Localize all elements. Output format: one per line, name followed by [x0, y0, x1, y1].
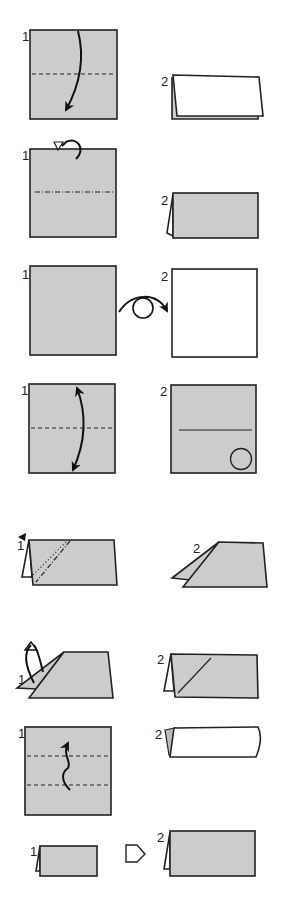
row1-step1: 1: [22, 29, 117, 119]
step-label: 1: [30, 844, 37, 859]
row5-step1: 1: [17, 533, 117, 585]
paper-square: [25, 727, 111, 815]
step-label: 2: [157, 830, 164, 845]
row8-step1: 1: [30, 844, 97, 876]
row6-step2: 2: [157, 652, 258, 698]
step-label: 2: [193, 541, 200, 556]
small-folded-paper: [40, 846, 97, 876]
paper-square: [171, 385, 256, 473]
row7-step1: 1: [18, 726, 111, 815]
step-label: 2: [160, 384, 167, 399]
row2-step2: 2: [161, 193, 258, 238]
turn-over-symbol: [119, 297, 167, 318]
paper-square-colored: [30, 266, 116, 355]
step-label: 1: [21, 383, 28, 398]
step-label: 1: [22, 148, 29, 163]
enlarge-arrow-icon: [126, 845, 145, 862]
row3-step2: 2: [161, 269, 257, 357]
back-flap: [164, 832, 170, 869]
step-label: 2: [161, 193, 168, 208]
row5-step2: 2: [172, 541, 267, 587]
folded-paper: [173, 193, 258, 238]
paper-square-white: [172, 269, 257, 357]
step-label: 1: [22, 267, 29, 282]
row2-step1: 1: [22, 141, 116, 237]
folded-paper-white: [173, 75, 263, 116]
folded-paper-white: [170, 727, 260, 757]
folded-paper: [171, 654, 258, 698]
step-label: 2: [161, 269, 168, 284]
paper-square: [30, 149, 116, 237]
row6-step1: 1: [17, 642, 113, 698]
row8-step2: 2: [157, 830, 255, 876]
step-label: 2: [157, 652, 164, 667]
step-label: 2: [155, 727, 162, 742]
folded-paper: [29, 540, 117, 585]
unfold-arrow-icon-2: [34, 645, 43, 672]
row4-step2: 2: [160, 384, 256, 473]
row1-step2: 2: [161, 74, 263, 119]
step-label: 1: [18, 726, 25, 741]
origami-diagram: 1 2 1 2 1 2 1 2: [0, 0, 282, 907]
step-label: 2: [161, 74, 168, 89]
turn-over-circle-icon: [133, 298, 153, 318]
turn-over-arrow-icon: [119, 297, 167, 312]
large-folded-paper: [170, 831, 255, 876]
row4-step1: 1: [21, 383, 115, 473]
step-label: 1: [22, 29, 29, 44]
step-label: 1: [17, 538, 24, 553]
row7-step2: 2: [155, 727, 260, 757]
row3-step1: 1: [22, 266, 116, 355]
